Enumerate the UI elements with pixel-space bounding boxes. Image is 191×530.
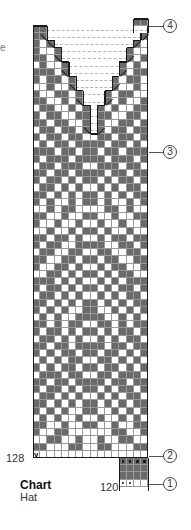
stitch-cell (62, 84, 69, 91)
stitch-cell (33, 292, 40, 299)
stitch-cell (141, 134, 148, 141)
stitch-cell (76, 364, 83, 371)
stitch-cell (62, 177, 69, 184)
stitch-cell (98, 321, 105, 328)
stitch-cell (83, 372, 90, 379)
stitch-cell (105, 148, 112, 155)
stitch-cell (127, 292, 134, 299)
stitch-cell (83, 379, 90, 386)
stitch-cell (119, 192, 126, 199)
stitch-cell (127, 386, 134, 393)
stitch-cell (127, 127, 134, 134)
stitch-cell (69, 285, 76, 292)
stitch-cell (91, 343, 98, 350)
stitch-cell (47, 213, 54, 220)
purl-dot-symbol (122, 482, 124, 484)
rib-cell (134, 480, 141, 487)
stitch-cell (33, 364, 40, 371)
stitch-cell (105, 141, 112, 148)
stitch-cell (112, 134, 119, 141)
stitch-cell (119, 134, 126, 141)
stitch-cell (127, 436, 134, 443)
stitch-cell (127, 271, 134, 278)
stitch-cell (76, 314, 83, 321)
stitch-cell (62, 372, 69, 379)
stitch-cell (119, 436, 126, 443)
stitch-cell (76, 256, 83, 263)
stitch-cell (33, 84, 40, 91)
stitch-cell (127, 372, 134, 379)
stitch-cell (47, 62, 54, 69)
stitch-cell (105, 400, 112, 407)
stitch-cell (127, 98, 134, 105)
purl-dot-symbol (129, 460, 131, 462)
stitch-cell (98, 436, 105, 443)
stitch-cell (83, 213, 90, 220)
decrease-edge (90, 120, 91, 127)
stitch-cell (119, 177, 126, 184)
stitch-cell (112, 206, 119, 213)
stitch-cell (98, 213, 105, 220)
stitch-cell (47, 285, 54, 292)
stitch-cell (105, 300, 112, 307)
stitch-cell (98, 408, 105, 415)
stitch-cell (112, 422, 119, 429)
stitch-cell (105, 393, 112, 400)
stitch-cell (47, 69, 54, 76)
decrease-edge (83, 91, 84, 98)
stitch-cell (98, 372, 105, 379)
stitch-cell (62, 134, 69, 141)
stitch-cell (83, 170, 90, 177)
stitch-cell (134, 400, 141, 407)
stitch-cell (40, 177, 47, 184)
stitch-cell (33, 314, 40, 321)
stitch-cell (69, 429, 76, 436)
stitch-cell (127, 177, 134, 184)
stitch-cell (55, 321, 62, 328)
stitch-cell (91, 436, 98, 443)
stitch-cell (127, 48, 134, 55)
stitch-cell (47, 170, 54, 177)
stitch-cell (141, 300, 148, 307)
stitch-cell (33, 343, 40, 350)
stitch-cell (127, 451, 134, 458)
rib-cell (119, 472, 126, 479)
stitch-cell (141, 84, 148, 91)
stitch-cell (83, 314, 90, 321)
stitch-cell (127, 235, 134, 242)
stitch-cell (47, 120, 54, 127)
stitch-cell (83, 429, 90, 436)
stitch-cell (127, 400, 134, 407)
stitch-cell (55, 336, 62, 343)
stitch-cell (98, 163, 105, 170)
purl-dot-symbol (136, 460, 138, 462)
stitch-cell (91, 220, 98, 227)
stitch-cell (83, 321, 90, 328)
stitch-cell (55, 264, 62, 271)
stitch-cell (119, 249, 126, 256)
stitch-cell (98, 177, 105, 184)
stitch-cell (127, 69, 134, 76)
stitch-cell (112, 307, 119, 314)
stitch-cell (76, 328, 83, 335)
stitch-cell (105, 228, 112, 235)
stitch-cell (55, 314, 62, 321)
chart-subtitle: Hat (20, 491, 37, 503)
stitch-cell (33, 429, 40, 436)
stitch-cell (55, 285, 62, 292)
stitch-cell (98, 379, 105, 386)
stitch-cell (55, 364, 62, 371)
stitch-cell (141, 148, 148, 155)
stitch-cell (33, 328, 40, 335)
stitch-cell (69, 192, 76, 199)
stitch-cell (47, 91, 54, 98)
stitch-cell (105, 422, 112, 429)
stitch-cell (83, 177, 90, 184)
stitch-cell (105, 451, 112, 458)
stitch-cell (83, 256, 90, 263)
stitch-cell (98, 350, 105, 357)
stitch-cell (83, 300, 90, 307)
stitch-cell (98, 328, 105, 335)
stitch-cell (47, 278, 54, 285)
stitch-cell (40, 163, 47, 170)
